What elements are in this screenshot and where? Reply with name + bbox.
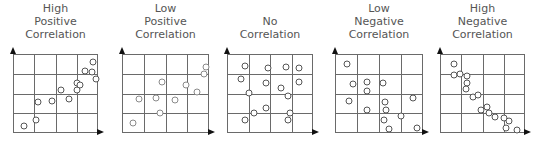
grid-line-horizontal — [228, 113, 312, 114]
data-point — [250, 110, 257, 117]
panel-high-positive: High Positive Correlation — [3, 0, 109, 141]
data-point — [153, 95, 160, 102]
data-point — [34, 99, 41, 106]
data-point — [33, 116, 40, 123]
grid-line-horizontal — [441, 113, 524, 114]
title-line: Low — [326, 2, 432, 15]
y-axis-arrow-icon — [224, 47, 230, 54]
data-point — [503, 125, 510, 132]
panel-no-correlation: No Correlation — [217, 0, 323, 141]
data-point — [278, 85, 285, 92]
data-point — [379, 79, 386, 86]
grid-line-horizontal — [441, 94, 524, 95]
data-point — [380, 116, 387, 123]
data-point — [513, 127, 520, 134]
title-line: Correlation — [326, 28, 432, 41]
data-point — [262, 80, 269, 87]
title-line: Correlation — [430, 28, 534, 41]
data-point — [413, 124, 420, 131]
data-point — [135, 96, 142, 103]
title-line: Low — [113, 2, 219, 15]
title-line: Negative — [430, 15, 534, 28]
data-point — [385, 126, 392, 133]
data-point — [491, 113, 498, 120]
title-line: High — [3, 2, 109, 15]
panel-low-positive: Low Positive Correlation — [113, 0, 219, 141]
data-point — [182, 82, 189, 89]
data-point — [157, 110, 164, 117]
scatter-grid — [440, 54, 525, 133]
x-axis-arrow-icon — [208, 129, 215, 135]
panel-title: Low Negative Correlation — [326, 2, 432, 41]
data-point — [21, 123, 28, 130]
y-axis-arrow-icon — [437, 47, 443, 54]
data-point — [90, 59, 97, 66]
grid-line-vertical — [292, 55, 293, 132]
data-point — [349, 81, 356, 88]
data-point — [81, 67, 88, 74]
data-point — [193, 89, 200, 96]
panel-title: High Negative Correlation — [430, 2, 534, 41]
grid-line-horizontal — [336, 94, 422, 95]
title-line: Positive — [3, 15, 109, 28]
data-point — [363, 78, 370, 85]
grid-line-horizontal — [228, 94, 312, 95]
panel-title: No Correlation — [217, 15, 323, 41]
data-point — [49, 97, 56, 104]
data-point — [130, 119, 137, 126]
grid-line-horizontal — [14, 113, 97, 114]
data-point — [475, 91, 482, 98]
y-axis-arrow-icon — [119, 47, 125, 54]
data-point — [202, 63, 209, 70]
data-point — [506, 117, 513, 124]
grid-line-vertical — [401, 55, 402, 132]
x-axis-arrow-icon — [97, 129, 104, 135]
data-point — [343, 61, 350, 68]
scatter-grid — [13, 54, 98, 133]
grid-line-vertical — [77, 55, 78, 132]
data-point — [295, 64, 302, 71]
grid-line-vertical — [187, 55, 188, 132]
grid-line-horizontal — [336, 113, 422, 114]
data-point — [89, 68, 96, 75]
grid-line-horizontal — [14, 94, 97, 95]
x-axis-arrow-icon — [312, 129, 319, 135]
data-point — [66, 96, 73, 103]
data-point — [242, 116, 249, 123]
data-point — [242, 63, 249, 70]
scatter-grid — [122, 54, 209, 133]
data-point — [92, 75, 99, 82]
title-line: Negative — [326, 15, 432, 28]
data-point — [283, 63, 290, 70]
scatter-grid — [335, 54, 423, 133]
panel-low-negative: Low Negative Correlation — [326, 0, 432, 141]
data-point — [200, 70, 207, 77]
data-point — [237, 76, 244, 83]
panel-high-negative: High Negative Correlation — [430, 0, 534, 141]
data-point — [463, 72, 470, 79]
y-axis-arrow-icon — [332, 47, 338, 54]
data-point — [346, 97, 353, 104]
grid-line-horizontal — [123, 113, 208, 114]
data-point — [398, 112, 405, 119]
y-axis-arrow-icon — [10, 47, 16, 54]
scatter-grid — [227, 54, 313, 133]
data-point — [159, 78, 166, 85]
data-point — [462, 85, 469, 92]
data-point — [296, 78, 303, 85]
data-point — [409, 95, 416, 102]
panel-title: Low Positive Correlation — [113, 2, 219, 41]
x-axis-arrow-icon — [422, 129, 429, 135]
panel-title: High Positive Correlation — [3, 2, 109, 41]
x-axis-arrow-icon — [524, 129, 531, 135]
data-point — [450, 61, 457, 68]
data-point — [363, 106, 370, 113]
data-point — [382, 99, 389, 106]
data-point — [363, 87, 370, 94]
title-line: High — [430, 2, 534, 15]
title-line: Positive — [113, 15, 219, 28]
data-point — [172, 97, 179, 104]
title-line: No — [217, 15, 323, 28]
data-point — [57, 86, 64, 93]
title-line: Correlation — [217, 28, 323, 41]
